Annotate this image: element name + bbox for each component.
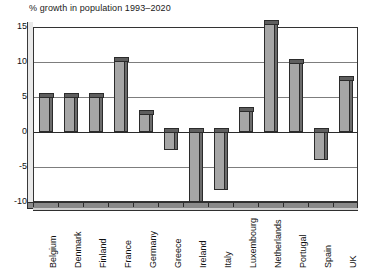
bar-denmark (64, 97, 75, 132)
x-label-portugal: Portugal (299, 234, 308, 268)
x-label-netherlands: Netherlands (274, 219, 283, 268)
x-label-luxembourg: Luxembourg (249, 218, 258, 268)
x-tick-mark (133, 203, 134, 207)
x-tick-mark (357, 203, 358, 207)
bar-ireland (189, 132, 200, 202)
x-label-greece: Greece (174, 238, 183, 268)
x-tick-mark (308, 203, 309, 207)
population-growth-chart: % growth in population 1993–2020 151050-… (0, 0, 375, 273)
x-tick-mark (158, 203, 159, 207)
bar-france (114, 61, 125, 132)
x-label-ireland: Ireland (199, 240, 208, 268)
x-label-italy: Italy (224, 251, 233, 268)
gridline-10 (34, 62, 357, 63)
y-tick-label: 15 (17, 22, 27, 31)
x-label-germany: Germany (149, 231, 158, 268)
bar-belgium (39, 97, 50, 132)
x-tick-mark (283, 203, 284, 207)
x-label-france: France (124, 240, 133, 268)
x-label-spain: Spain (324, 245, 333, 268)
y-tick-label: -5 (19, 162, 27, 171)
x-label-denmark: Denmark (74, 231, 83, 268)
x-tick-mark (233, 203, 234, 207)
x-tick-mark (183, 203, 184, 207)
bar-netherlands (264, 24, 275, 133)
bar-uk (339, 80, 350, 133)
bar-portugal (289, 63, 300, 132)
chart-title: % growth in population 1993–2020 (29, 3, 171, 14)
plot-floor-front (33, 208, 358, 211)
x-tick-mark (33, 203, 34, 207)
bar-italy (214, 132, 225, 190)
y-tick-label: -10 (14, 197, 27, 206)
x-tick-mark (58, 203, 59, 207)
x-tick-mark (258, 203, 259, 207)
x-tick-mark (208, 203, 209, 207)
y-tick-label: 10 (17, 57, 27, 66)
bar-spain (314, 132, 325, 160)
bar-greece (164, 132, 175, 150)
gridline-5 (34, 97, 357, 98)
x-tick-mark (108, 203, 109, 207)
x-tick-mark (83, 203, 84, 207)
bar-luxembourg (239, 111, 250, 132)
bar-germany (139, 114, 150, 132)
bar-finland (89, 97, 100, 132)
x-label-finland: Finland (99, 238, 108, 268)
x-label-belgium: Belgium (49, 235, 58, 268)
x-tick-mark (333, 203, 334, 207)
x-label-uk: UK (349, 255, 358, 268)
